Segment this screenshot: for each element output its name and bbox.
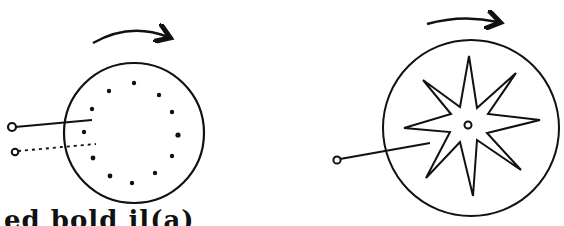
solid-probe xyxy=(15,120,92,127)
rotation-arrow-icon xyxy=(427,18,498,24)
diagram xyxy=(0,0,564,226)
right-panel xyxy=(333,18,559,216)
axle-icon xyxy=(465,122,472,129)
left-panel xyxy=(8,31,204,203)
caption-fragment: ed bold il(a) xyxy=(4,207,195,226)
probe-terminal-icon xyxy=(333,156,340,163)
probe-terminal-icon xyxy=(8,123,16,131)
probe-terminal-icon xyxy=(12,149,19,156)
dotted-probe xyxy=(18,144,96,151)
dot-ring xyxy=(82,81,181,185)
rotation-arrow-icon xyxy=(93,31,168,43)
